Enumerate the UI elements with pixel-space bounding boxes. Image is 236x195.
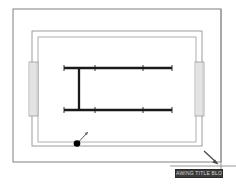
inner-frame-rect <box>38 37 196 142</box>
title-block-label[interactable]: DRAWING TITLE BLOCK <box>175 169 223 178</box>
middle-frame-rect <box>32 31 202 146</box>
corner-arrow-icon <box>204 151 219 165</box>
node-marker[interactable] <box>74 132 88 147</box>
bottom-beam <box>64 107 172 113</box>
right-wall-panel <box>195 62 204 116</box>
marker-dot-icon <box>74 140 81 147</box>
title-block-label-text: DRAWING TITLE BLOCK <box>175 171 223 176</box>
top-beam <box>64 65 172 71</box>
outer-frame-rect <box>13 9 221 162</box>
drawing-canvas: DRAWING TITLE BLOCK <box>0 0 236 195</box>
plan-drawing-svg <box>0 0 236 195</box>
left-wall-panel <box>29 62 38 116</box>
